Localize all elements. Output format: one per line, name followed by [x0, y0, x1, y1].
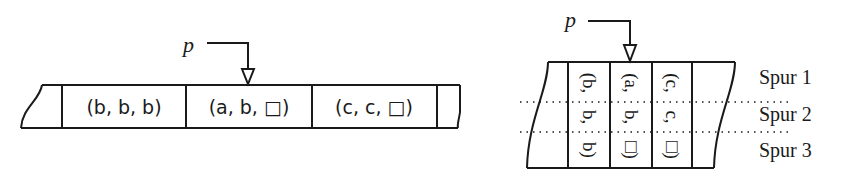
track-label-3: Spur 3	[759, 139, 812, 162]
track-label-1: Spur 1	[759, 66, 812, 89]
left-cells: (b, b, b) (a, b, □) (c, c, □)	[86, 96, 413, 118]
column-2-track-2: c,	[662, 110, 683, 123]
pointer-line	[207, 43, 248, 70]
column-2-track-1: (c,	[661, 73, 683, 93]
tape-cell-2: (c, c, □)	[335, 96, 413, 118]
turing-tape-diagram: (b, b, b) (a, b, □) (c, c, □) p (b, b, b…	[0, 0, 843, 171]
track-labels: Spur 1 Spur 2 Spur 3	[759, 66, 812, 162]
column-0-track-1: (b,	[578, 73, 600, 94]
track-separators	[520, 102, 793, 132]
column-0-track-3: b)	[578, 142, 600, 158]
tape-right-torn-edge	[458, 85, 460, 128]
column-1-track-2: b,	[621, 110, 642, 124]
pointer-label: p	[563, 7, 576, 32]
tape-right-torn-edge	[714, 62, 735, 168]
arrow-head-icon	[624, 45, 636, 61]
arrow-head-icon	[242, 69, 254, 84]
column-0-track-2: b,	[579, 110, 600, 124]
right-columns: (b, b, b) (a, b, □) (c, c, □)	[578, 73, 683, 159]
column-1-track-1: (a,	[620, 73, 642, 93]
pointer-line	[588, 21, 630, 46]
tape-left-torn-edge	[21, 85, 42, 128]
tape-left-torn-edge	[527, 62, 548, 168]
pointer-label: p	[181, 32, 194, 57]
right-head-pointer: p	[563, 7, 636, 61]
column-2-track-3: □)	[661, 141, 683, 159]
tape-cell-1: (a, b, □)	[209, 96, 290, 118]
tape-cell-0: (b, b, b)	[86, 96, 161, 118]
left-head-pointer: p	[181, 32, 254, 84]
column-1-track-3: □)	[620, 141, 642, 159]
track-label-2: Spur 2	[759, 103, 812, 126]
